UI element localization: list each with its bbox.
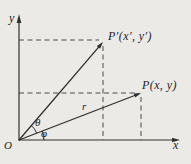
ray-o-p-arrowhead-icon [134, 93, 141, 98]
point-p-label: P(x, y) [141, 78, 177, 92]
y-axis-arrowhead-icon [17, 14, 22, 23]
x-axis-label: x [172, 138, 179, 152]
rotation-diagram-figure: y x O P′(x′, y′) P(x, y) r θ φ [0, 0, 191, 164]
origin-label: O [4, 139, 12, 151]
point-p-prime-label: P′(x′, y′) [107, 29, 152, 43]
phi-label: φ [41, 127, 47, 139]
radius-label: r [82, 100, 87, 112]
y-axis-label: y [8, 11, 15, 25]
rotation-diagram-canvas: y x O P′(x′, y′) P(x, y) r θ φ [0, 0, 191, 164]
